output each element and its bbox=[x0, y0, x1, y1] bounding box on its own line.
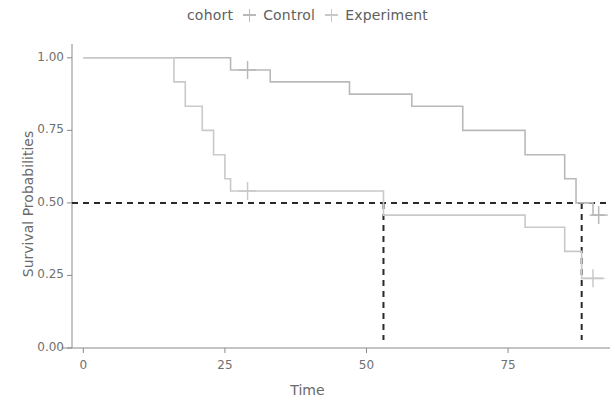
x-tick-label: 75 bbox=[488, 358, 528, 372]
censor-mark-experiment bbox=[584, 269, 602, 287]
survival-curve-experiment bbox=[83, 58, 604, 279]
x-tick-label: 25 bbox=[205, 358, 245, 372]
x-tick-label: 0 bbox=[63, 358, 103, 372]
y-tick-label: 0.75 bbox=[18, 122, 64, 136]
x-tick-label: 50 bbox=[346, 358, 386, 372]
y-tick-label: 0.25 bbox=[18, 267, 64, 281]
y-tick-label: 1.00 bbox=[18, 50, 64, 64]
censor-mark-control bbox=[239, 61, 257, 79]
y-tick-label: 0.00 bbox=[18, 340, 64, 354]
x-axis-title: Time bbox=[0, 382, 615, 398]
y-tick-label: 0.50 bbox=[18, 195, 64, 209]
chart-canvas bbox=[0, 0, 615, 410]
censor-mark-experiment bbox=[239, 182, 257, 200]
survival-plot: cohort Control Experiment Time Survival … bbox=[0, 0, 615, 410]
